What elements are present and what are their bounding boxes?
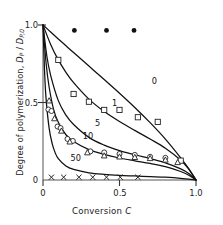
- marker-1-3: [102, 107, 107, 112]
- x-tick-label-1: 1.0: [184, 188, 208, 198]
- curve-label-1: 1: [112, 98, 117, 108]
- marker-1-1: [71, 91, 76, 96]
- marker-filled-circles-0: [72, 28, 77, 33]
- marker-filled-circles-2: [132, 28, 137, 33]
- marker-1-0: [56, 57, 61, 62]
- marker-50-1: [61, 175, 66, 180]
- marker-5-1: [49, 109, 54, 114]
- x-tick-label-0: 0: [37, 188, 49, 198]
- x-axis-symbol: C: [125, 206, 131, 216]
- marker-1-4: [117, 107, 122, 112]
- curve-label-50: 50: [71, 153, 81, 163]
- curve-label-5: 5: [95, 118, 100, 128]
- marker-50-4: [104, 175, 109, 180]
- marker-50-6: [135, 175, 140, 180]
- y-axis-title-prefix: Degree of polymerization,: [15, 63, 25, 176]
- x-tick-label-05: 0.5: [108, 188, 132, 198]
- x-axis-title: Conversion C: [72, 206, 131, 216]
- marker-1-2: [86, 99, 91, 104]
- y-tick-label-0: 0: [24, 175, 38, 185]
- marker-50-2: [76, 175, 81, 180]
- y-axis-symbol-a: D: [15, 56, 25, 62]
- y-axis-title: Degree of polymerization, DP / DP,0: [15, 27, 26, 177]
- marker-1-6: [155, 119, 160, 124]
- x-axis-title-prefix: Conversion: [72, 206, 125, 216]
- y-axis-sub-a: P: [18, 53, 25, 57]
- y-axis-slash: /: [15, 44, 25, 52]
- marker-50-3: [90, 175, 95, 180]
- marker-50-0: [49, 175, 54, 180]
- y-axis-symbol-b: D: [15, 38, 25, 44]
- y-axis-sub-b: P,0: [18, 29, 25, 38]
- marker-1-5: [135, 115, 140, 120]
- figure-chart-degree-of-polymerization: 1.0 0.5 0 0 0.5 1.0 Degree of polymeriza…: [0, 0, 223, 225]
- curve-label-0: 0: [152, 76, 157, 86]
- curve-label-10: 10: [83, 131, 93, 141]
- marker-filled-circles-1: [104, 28, 109, 33]
